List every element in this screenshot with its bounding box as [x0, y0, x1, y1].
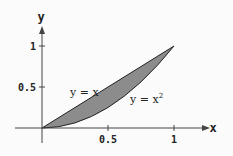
- area-between-curves-diagram: 0.5 1 0.5 1 x y y = x y = x2: [0, 0, 233, 156]
- x-axis-label: x: [209, 121, 216, 135]
- curve-label-y-equals-x: y = x: [69, 86, 99, 99]
- curve-label-y-equals-x-squared: y = x2: [129, 92, 163, 106]
- y-axis-label: y: [37, 10, 44, 24]
- y-axis-arrow-icon: [39, 26, 45, 34]
- y-tick-label: 1: [30, 41, 36, 52]
- x-tick-label: 1: [171, 134, 177, 145]
- curve-y-equals-x: [42, 46, 174, 128]
- y-tick-label: 0.5: [18, 82, 36, 93]
- x-tick-label: 0.5: [99, 134, 117, 145]
